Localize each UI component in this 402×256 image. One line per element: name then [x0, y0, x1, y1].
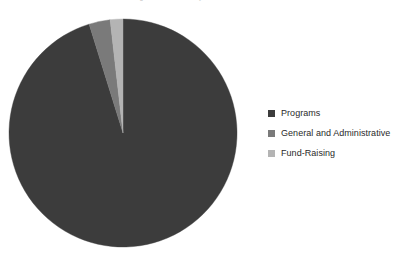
pie-slice-group [9, 19, 237, 247]
square-swatch-icon [268, 130, 275, 137]
pie-chart-svg [0, 0, 258, 256]
legend-item-programs[interactable]: Programs [268, 103, 402, 123]
legend-item-label: Programs [281, 108, 320, 119]
square-swatch-icon [268, 150, 275, 157]
legend-item-label: General and Administrative [281, 128, 390, 139]
pie-chart-figure: financial statements of the organization… [0, 0, 402, 256]
chart-legend: Programs General and Administrative Fund… [268, 103, 402, 163]
legend-item-label: Fund-Raising [281, 148, 335, 159]
square-swatch-icon [268, 110, 275, 117]
legend-item-fund-raising[interactable]: Fund-Raising [268, 143, 402, 163]
legend-item-general-and-administrative[interactable]: General and Administrative [268, 123, 402, 143]
pie-plot-area [0, 0, 258, 256]
